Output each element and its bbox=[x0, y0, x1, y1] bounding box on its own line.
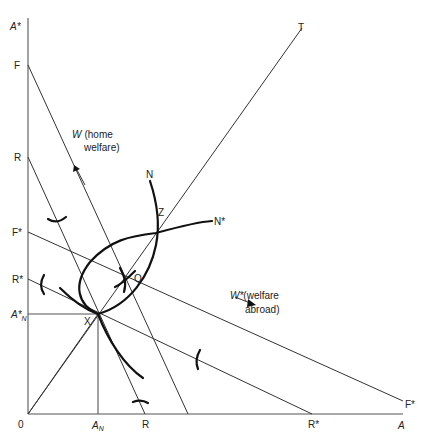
tick-label-F: F bbox=[14, 60, 20, 71]
tick-arc-R-line bbox=[133, 401, 148, 403]
point-label-Z: Z bbox=[158, 207, 164, 218]
curve-label-N: N bbox=[146, 169, 153, 180]
tick-arc-R-star bbox=[41, 275, 44, 294]
home-welfare-label: W(home bbox=[72, 129, 113, 140]
tick-arc-F-line bbox=[48, 217, 66, 221]
axis-label-a-star: A* bbox=[9, 21, 22, 32]
tick-label-R-horizontal: R bbox=[142, 419, 149, 430]
tick-label-R-star: R* bbox=[12, 274, 23, 285]
abroad-welfare-label-line2: abroad) bbox=[245, 304, 279, 315]
point-label-X: X bbox=[84, 316, 91, 327]
tick-label-R: R bbox=[14, 152, 21, 163]
curve-N-star bbox=[79, 221, 212, 314]
axis-label-a: A bbox=[397, 420, 405, 431]
line-F bbox=[28, 65, 188, 414]
origin-label: 0 bbox=[18, 419, 24, 430]
tick-label-F-star-horizontal: F* bbox=[405, 399, 415, 410]
tick-label-F-star: F* bbox=[12, 227, 22, 238]
line-R bbox=[28, 157, 145, 414]
tick-label-an-star: A*N bbox=[10, 309, 28, 322]
point-label-T: T bbox=[298, 22, 304, 33]
welfare-arc-x bbox=[60, 288, 143, 378]
tick-label-R-star-horizontal: R* bbox=[308, 419, 319, 430]
trade-policy-diagram: A* F R F* R* A*N 0 AN R R* A F* X Q Z T … bbox=[0, 0, 438, 445]
abroad-welfare-label: W*(welfare bbox=[230, 290, 279, 301]
home-welfare-arrow-shaft bbox=[77, 170, 85, 185]
ray-x-upper bbox=[28, 314, 98, 414]
point-label-Q: Q bbox=[134, 273, 142, 284]
curve-label-N-star: N* bbox=[214, 216, 225, 227]
home-welfare-label-line2: welfare) bbox=[83, 142, 120, 153]
tick-label-an: AN bbox=[91, 420, 105, 432]
